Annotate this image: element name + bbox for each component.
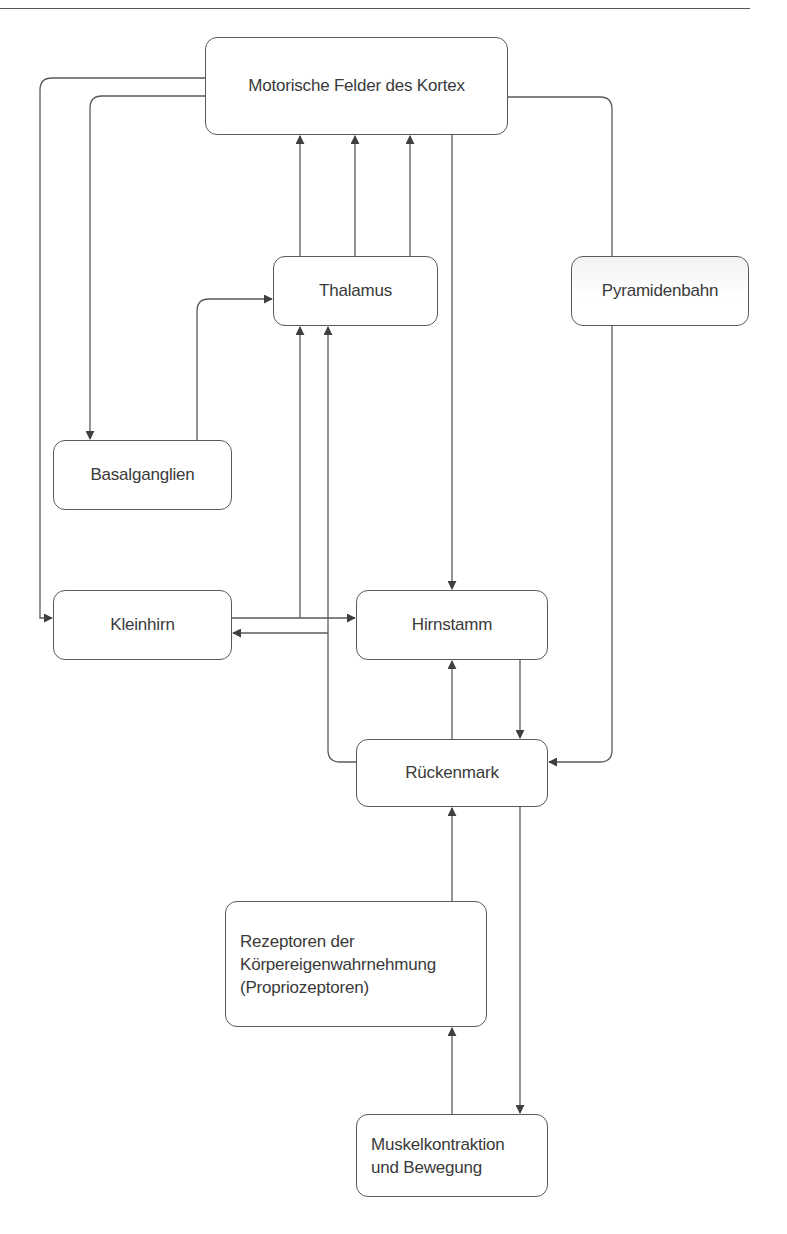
node-pyramidenbahn-label: Pyramidenbahn [602, 281, 718, 301]
node-kleinhirn-label: Kleinhirn [110, 615, 174, 635]
node-rezeptoren-label: Rezeptoren der Körpereigenwahrnehmung (P… [240, 930, 436, 999]
node-rueckenmark: Rückenmark [356, 739, 548, 807]
node-thalamus: Thalamus [273, 256, 438, 326]
edge-kortex-pyramidenbahn [508, 97, 612, 256]
node-rezeptoren: Rezeptoren der Körpereigenwahrnehmung (P… [225, 901, 487, 1027]
node-kleinhirn: Kleinhirn [53, 590, 232, 660]
edge-kortex-basalganglien [90, 96, 205, 439]
edge-kortex-kleinhirn [40, 78, 205, 618]
node-pyramidenbahn: Pyramidenbahn [571, 256, 749, 326]
node-basalganglien-label: Basalganglien [90, 465, 194, 485]
edge-rueckenmark-thalamus [328, 327, 356, 762]
node-basalganglien: Basalganglien [53, 440, 232, 510]
node-hirnstamm: Hirnstamm [356, 590, 548, 660]
node-kortex-label: Motorische Felder des Kortex [248, 76, 464, 96]
node-kortex: Motorische Felder des Kortex [205, 37, 508, 135]
node-muskel-label: Muskelkontraktion und Bewegung [371, 1133, 505, 1179]
node-rueckenmark-label: Rückenmark [405, 763, 498, 783]
edge-pyramidenbahn-rueckenmark [549, 326, 612, 762]
node-hirnstamm-label: Hirnstamm [412, 615, 492, 635]
node-muskel: Muskelkontraktion und Bewegung [356, 1114, 548, 1197]
node-thalamus-label: Thalamus [319, 281, 392, 301]
edge-basalganglien-thalamus [197, 299, 272, 440]
